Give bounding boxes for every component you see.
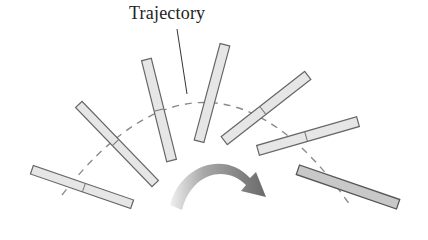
rod-2 (76, 101, 159, 186)
rotation-arrow-icon (170, 164, 266, 210)
label-leader-line (177, 29, 187, 94)
trajectory-label: Trajectory (129, 3, 205, 24)
rod-3 (142, 58, 177, 161)
rod-4 (194, 43, 230, 142)
tumbling-rod-diagram: Trajectory (0, 0, 428, 240)
rod-6 (257, 117, 360, 155)
diagram-canvas (0, 0, 428, 240)
